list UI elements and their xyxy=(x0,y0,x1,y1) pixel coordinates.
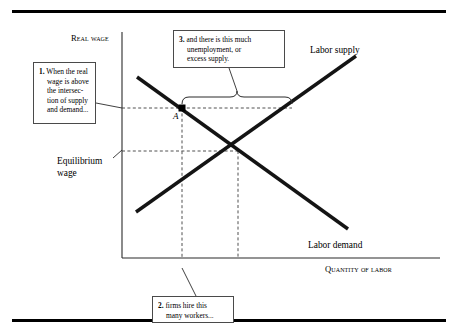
callout-1-line1: 1. When the real xyxy=(39,67,90,77)
callout-3-line3: excess supply. xyxy=(179,54,279,64)
callout-1-text1: When the real xyxy=(46,67,87,76)
callout-2-number: 2. xyxy=(158,301,164,310)
callout-1-line3: the intersec- xyxy=(39,86,90,96)
labor-supply-curve xyxy=(136,56,356,212)
callout-1-number: 1. xyxy=(39,67,45,76)
callout-3-number: 3. xyxy=(179,35,185,44)
callout-3-text1: and there is this much xyxy=(186,35,251,44)
leader-line-callout-2 xyxy=(182,268,196,296)
figure-container: Real wage Quantity of labor Labor supply… xyxy=(0,0,458,330)
labor-supply-label: Labor supply xyxy=(310,45,360,55)
callout-2-text1: firms hire this xyxy=(165,301,206,310)
labor-demand-label: Labor demand xyxy=(308,240,362,250)
equilibrium-wage-label: Equilibrium wage xyxy=(57,155,102,179)
equilibrium-wage-line2: wage xyxy=(57,167,102,179)
callout-1-line5: and demand... xyxy=(39,105,90,115)
callout-2-line2: many workers... xyxy=(158,311,228,321)
y-axis-label: Real wage xyxy=(71,33,109,43)
labor-demand-curve xyxy=(137,77,348,229)
leader-line-equilibrium xyxy=(113,150,122,158)
leader-line-callout-1 xyxy=(96,103,122,108)
callout-box-2: 2. firms hire this many workers... xyxy=(152,296,234,323)
leader-line-callout-3 xyxy=(229,68,237,91)
callout-3-line1: 3. and there is this much xyxy=(179,35,279,45)
callout-1-line4: tion of supply xyxy=(39,96,90,106)
callout-box-1: 1. When the real wage is above the inter… xyxy=(33,62,96,124)
equilibrium-wage-line1: Equilibrium xyxy=(57,155,102,167)
excess-supply-brace xyxy=(182,91,292,104)
callout-box-3: 3. and there is this much unemployment, … xyxy=(173,30,285,68)
callout-1-line2: wage is above xyxy=(39,77,90,87)
point-a-marker xyxy=(179,105,186,112)
callout-3-line2: unemployment, or xyxy=(179,45,279,55)
callout-2-line1: 2. firms hire this xyxy=(158,301,228,311)
point-a-label: A xyxy=(173,111,179,121)
x-axis-label: Quantity of labor xyxy=(325,264,392,274)
